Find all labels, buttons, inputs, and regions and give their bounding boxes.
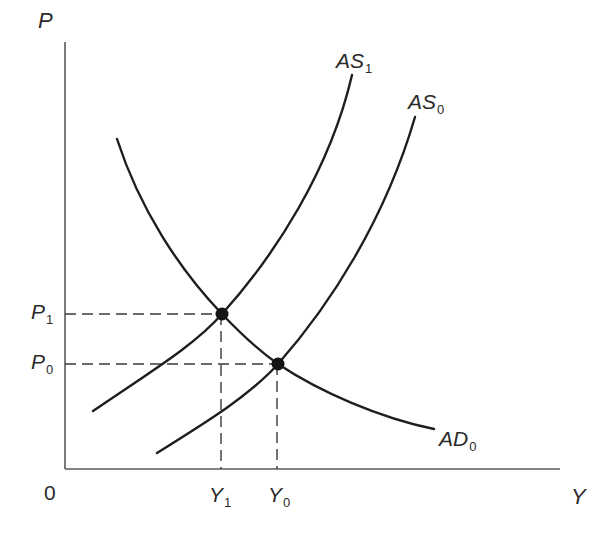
p1-label-main: P	[31, 300, 45, 323]
ad0-curve	[117, 139, 434, 429]
as-ad-diagram	[0, 0, 596, 539]
as1-label-main: AS	[336, 49, 364, 72]
y0-label-sub: 0	[283, 495, 290, 510]
equilibrium-point-e0	[272, 358, 285, 371]
y0-label-main: Y	[268, 483, 282, 506]
as0-label: AS0	[408, 91, 444, 116]
p0-label-main: P	[31, 350, 45, 373]
output-axis-label: Y	[571, 486, 586, 508]
ad0-label-sub: 0	[469, 439, 476, 454]
as1-label: AS1	[336, 50, 372, 75]
equilibrium-point-e1	[216, 308, 229, 321]
price-axis-label: P	[38, 10, 53, 32]
ad0-label-main: AD	[439, 427, 468, 450]
y1-label-main: Y	[209, 483, 223, 506]
as0-label-main: AS	[408, 90, 436, 113]
y1-tick-label: Y1	[209, 484, 231, 509]
y1-label-sub: 1	[224, 495, 231, 510]
p1-label-sub: 1	[46, 312, 53, 327]
origin-label: 0	[44, 482, 56, 503]
p0-tick-label: P0	[31, 351, 53, 376]
y0-tick-label: Y0	[268, 484, 290, 509]
ad0-label: AD0	[439, 428, 476, 453]
p1-tick-label: P1	[31, 301, 53, 326]
as0-label-sub: 0	[437, 102, 444, 117]
as1-label-sub: 1	[365, 61, 372, 76]
p0-label-sub: 0	[46, 362, 53, 377]
as1-curve	[93, 75, 352, 411]
